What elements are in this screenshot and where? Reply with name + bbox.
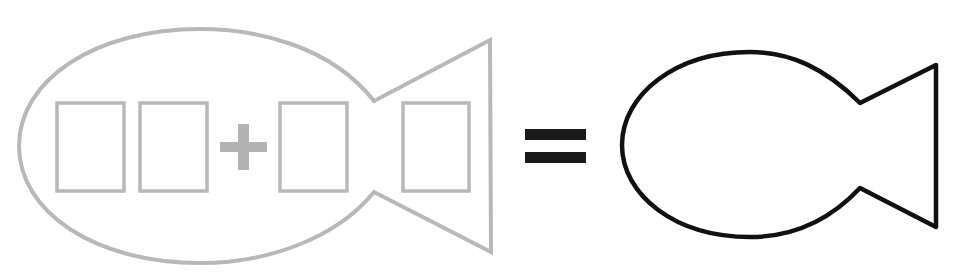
plus-icon: [220, 124, 267, 170]
digit-box-4[interactable]: [403, 103, 469, 191]
diagram-canvas: [0, 0, 956, 274]
digit-box-1[interactable]: [57, 103, 124, 191]
right-fish-outline[interactable]: [622, 52, 936, 237]
fish-equation-diagram: [0, 0, 956, 274]
equals-icon: [525, 129, 586, 163]
digit-box-2[interactable]: [140, 103, 207, 191]
digit-box-3[interactable]: [280, 103, 347, 191]
